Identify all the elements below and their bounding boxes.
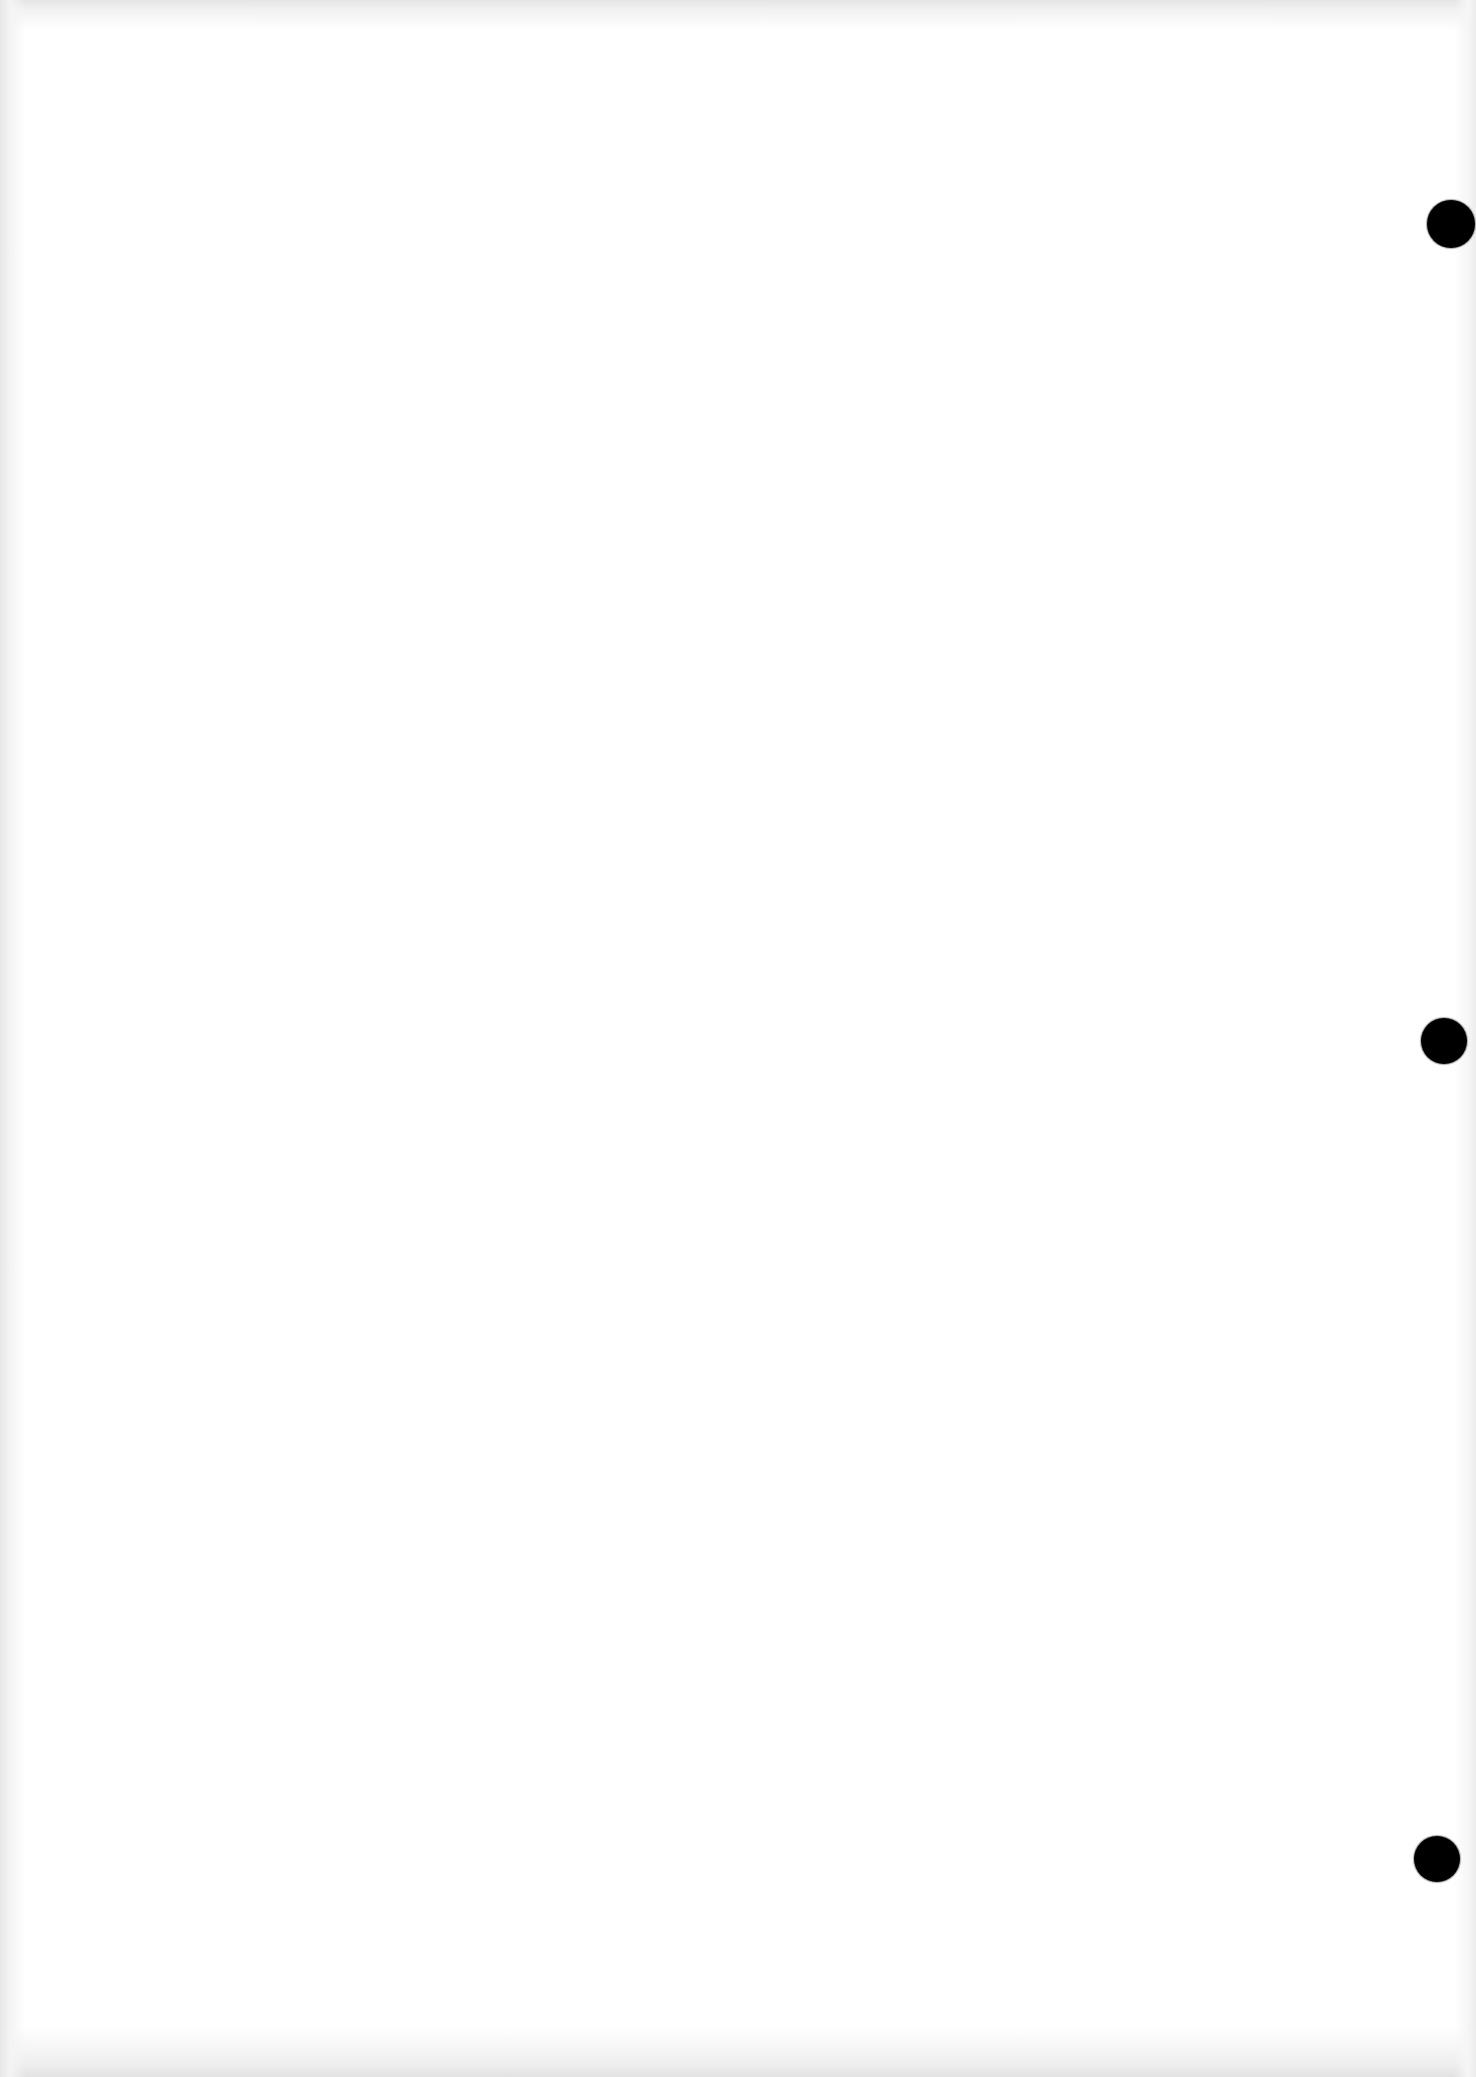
punch-hole-bottom	[1414, 1836, 1460, 1882]
punch-hole-top	[1427, 200, 1475, 248]
punch-hole-middle	[1421, 1018, 1467, 1064]
scan-edge-shading	[0, 0, 1476, 2077]
scanned-page	[0, 0, 1476, 2077]
